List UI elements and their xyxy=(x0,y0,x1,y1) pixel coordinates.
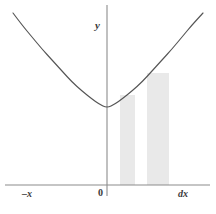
origin-label: 0 xyxy=(98,188,103,198)
riemann-rectangle-2 xyxy=(147,73,169,185)
y-axis-label: y xyxy=(95,20,100,31)
plot-canvas xyxy=(0,0,216,214)
parabola-figure: y 0 –x dx xyxy=(0,0,216,214)
x-axis-left-label: –x xyxy=(22,189,32,199)
riemann-rectangle-1 xyxy=(120,95,135,185)
x-axis-right-label: dx xyxy=(178,189,188,199)
